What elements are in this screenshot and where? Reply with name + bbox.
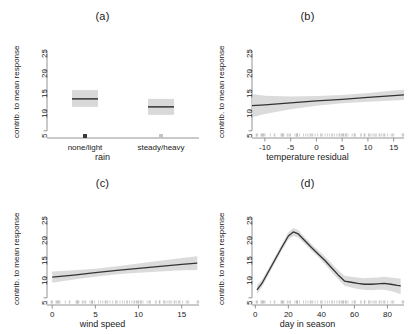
- panel-a-ytick: 20: [40, 69, 49, 78]
- panel-b-xtick: -10: [259, 143, 271, 152]
- panel-b-ytick: 25: [245, 49, 254, 58]
- panel-c-xtick: 0: [50, 310, 54, 319]
- panel-a-xtick-category: none/light: [68, 143, 103, 152]
- panel-b-xtick: 15: [389, 143, 398, 152]
- panel-d-xtick: 20: [284, 310, 293, 319]
- panel-b-plot: [205, 0, 410, 167]
- panel-a-ytick: 5: [40, 133, 49, 137]
- panel-d-ytick: 20: [245, 236, 254, 245]
- panel-b-ytick: 20: [245, 69, 254, 78]
- panel-c-xtick: 15: [177, 310, 186, 319]
- panel-a-ytick: 10: [40, 109, 49, 118]
- panel-c-plot: [0, 167, 205, 334]
- panel-d-xtick: 60: [350, 310, 359, 319]
- panel-b-xtick: 10: [363, 143, 372, 152]
- panel-b-ytick: 15: [245, 89, 254, 98]
- panel-d-xtick: 40: [317, 310, 326, 319]
- panel-d-ytick: 5: [245, 300, 254, 304]
- panel-b-xlabel: temperature residual: [205, 152, 410, 162]
- panel-c-ytick: 10: [40, 276, 49, 285]
- panel-d-xtick: 80: [383, 310, 392, 319]
- panel-d-ytick: 15: [245, 256, 254, 265]
- panel-d-plot: [205, 167, 410, 334]
- panel-a-xlabel: rain: [0, 152, 205, 162]
- panel-c-xtick: 5: [93, 310, 97, 319]
- panel-b-ytick: 10: [245, 109, 254, 118]
- figure-panel-grid: (a) contrib. to mean response rain 51015…: [0, 0, 410, 334]
- panel-b: (b) contrib. to mean response temperatur…: [205, 0, 410, 167]
- panel-a: (a) contrib. to mean response rain 51015…: [0, 0, 205, 167]
- panel-c-ytick: 25: [40, 216, 49, 225]
- panel-d: (d) contrib. to mean response day in sea…: [205, 167, 410, 334]
- panel-c-xlabel: wind speed: [0, 319, 205, 329]
- panel-b-xtick: 0: [314, 143, 318, 152]
- panel-d-xlabel: day in season: [205, 319, 410, 329]
- panel-a-ytick: 15: [40, 89, 49, 98]
- panel-a-ytick: 25: [40, 49, 49, 58]
- panel-a-xtick-category: steady/heavy: [137, 143, 184, 152]
- panel-c-ytick: 20: [40, 236, 49, 245]
- panel-c: (c) contrib. to mean response wind speed…: [0, 167, 205, 334]
- panel-d-ytick: 10: [245, 276, 254, 285]
- panel-b-xtick: 5: [340, 143, 344, 152]
- panel-d-ytick: 25: [245, 216, 254, 225]
- panel-a-plot: [0, 0, 205, 167]
- panel-c-ytick: 15: [40, 256, 49, 265]
- panel-b-ytick: 5: [245, 133, 254, 137]
- panel-c-xtick: 10: [134, 310, 143, 319]
- panel-b-xtick: -5: [287, 143, 294, 152]
- panel-c-ytick: 5: [40, 300, 49, 304]
- panel-d-xtick: 0: [253, 310, 257, 319]
